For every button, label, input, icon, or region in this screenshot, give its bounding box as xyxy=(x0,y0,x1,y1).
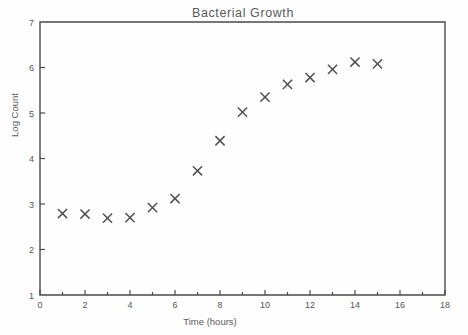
x-tick-label: 18 xyxy=(440,300,450,310)
x-tick-label: 10 xyxy=(260,300,270,310)
data-point-markers xyxy=(58,57,382,222)
x-tick-label: 16 xyxy=(395,300,405,310)
x-tick-label: 2 xyxy=(82,300,87,310)
data-point xyxy=(350,57,359,66)
x-tick-label: 14 xyxy=(350,300,360,310)
x-axis-title: Time (hours) xyxy=(183,316,237,327)
data-point xyxy=(170,194,179,203)
x-axis-tick-labels: 024681012141618 xyxy=(37,300,450,310)
data-point xyxy=(260,92,269,101)
chart-title-group: Bacterial Growth xyxy=(192,6,294,20)
x-tick-label: 0 xyxy=(37,300,42,310)
y-tick-label: 3 xyxy=(29,200,34,210)
x-tick-label: 4 xyxy=(127,300,132,310)
y-tick-label: 6 xyxy=(29,63,34,73)
data-point xyxy=(238,107,247,116)
x-tick-label: 12 xyxy=(305,300,315,310)
data-point xyxy=(373,59,382,68)
y-tick-label: 2 xyxy=(29,245,34,255)
data-point xyxy=(103,214,112,223)
x-axis-ticks xyxy=(40,290,445,295)
data-point xyxy=(80,209,89,218)
data-point xyxy=(305,73,314,82)
chart-title: Bacterial Growth xyxy=(192,6,294,20)
y-axis-title: Log Count xyxy=(9,93,20,137)
data-point xyxy=(125,213,134,222)
data-point xyxy=(193,166,202,175)
y-axis-tick-labels: 1234567 xyxy=(29,18,34,301)
data-point xyxy=(328,65,337,74)
plot-frame xyxy=(40,22,445,295)
y-tick-label: 7 xyxy=(29,18,34,28)
data-point xyxy=(283,80,292,89)
y-tick-label: 4 xyxy=(29,154,34,164)
y-tick-label: 1 xyxy=(29,291,34,301)
data-point xyxy=(148,203,157,212)
y-tick-label: 5 xyxy=(29,109,34,119)
data-point xyxy=(215,136,224,145)
data-point xyxy=(58,209,67,218)
x-tick-label: 8 xyxy=(217,300,222,310)
y-axis-ticks xyxy=(40,68,45,250)
x-tick-label: 6 xyxy=(172,300,177,310)
chart-page: Bacterial Growth 024681012141618 1234567… xyxy=(0,0,468,335)
bacterial-growth-scatter-chart: Bacterial Growth 024681012141618 1234567… xyxy=(0,0,468,335)
plot-border xyxy=(40,22,445,295)
